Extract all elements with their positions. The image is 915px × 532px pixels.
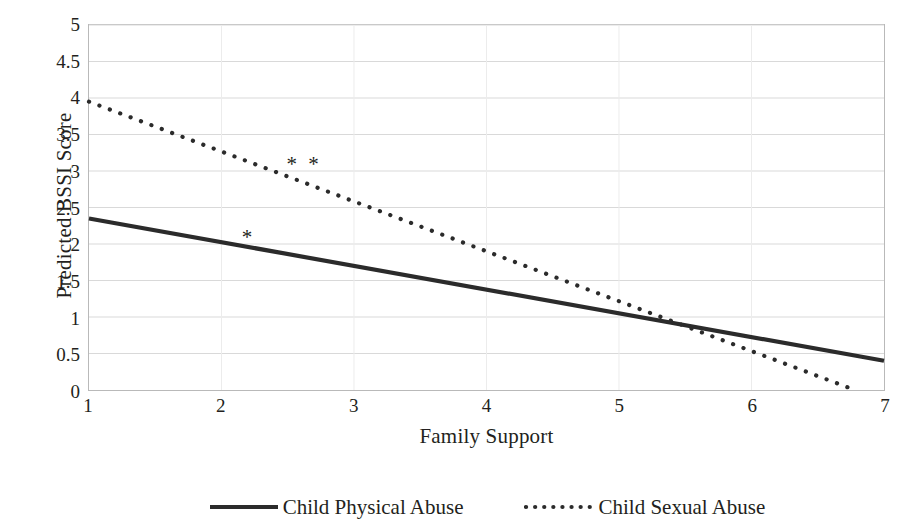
legend-entry-1[interactable]: Child Physical Abuse [208, 497, 464, 518]
y-tick-label: 3.5 [20, 125, 80, 144]
significance-marker-1: * [242, 232, 256, 242]
legend-entry-2[interactable]: Child Sexual Abuse [524, 497, 766, 518]
x-tick-label: 1 [63, 396, 113, 415]
y-tick-label: 0.5 [20, 345, 80, 364]
legend-label: Child Sexual Abuse [599, 497, 766, 518]
y-axis-tick-labels: 54.543.532.521.510.50 [14, 24, 80, 391]
x-tick-label: 2 [196, 396, 246, 415]
x-tick-label: 6 [727, 396, 777, 415]
y-tick-label: 4 [20, 88, 80, 107]
chart-figure: Predicted BSSI Score 54.543.532.521.510.… [0, 0, 915, 532]
x-tick-label: 7 [860, 396, 910, 415]
y-tick-label: 3 [20, 161, 80, 180]
x-axis-tick-labels: 1234567 [88, 396, 885, 422]
significance-marker-layer: ** * [89, 25, 884, 390]
significance-marker-2: * * [287, 159, 322, 169]
y-tick-label: 4.5 [20, 51, 80, 70]
legend-label: Child Physical Abuse [283, 497, 464, 518]
x-tick-label: 4 [462, 396, 512, 415]
y-tick-label: 2.5 [20, 198, 80, 217]
x-tick-label: 5 [594, 396, 644, 415]
plot-area: ** * [88, 24, 885, 391]
y-tick-label: 1.5 [20, 271, 80, 290]
x-tick-label: 3 [329, 396, 379, 415]
y-tick-label: 2 [20, 235, 80, 254]
x-axis-title: Family Support [88, 424, 885, 449]
solid-line-icon [208, 500, 280, 514]
dotted-line-icon [524, 500, 596, 514]
chart-legend: Child Physical AbuseChild Sexual Abuse [88, 487, 885, 527]
y-tick-label: 5 [20, 15, 80, 34]
y-tick-label: 1 [20, 308, 80, 327]
